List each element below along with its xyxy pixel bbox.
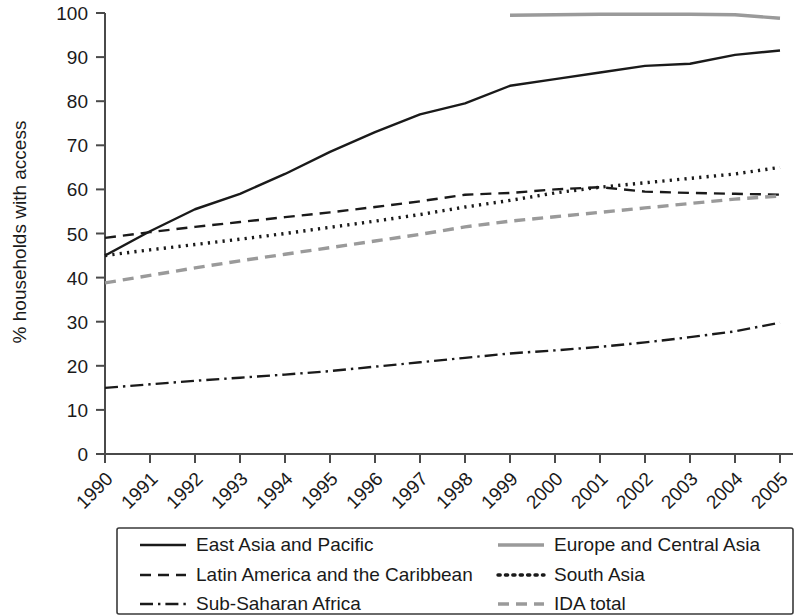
y-axis-ticks: 0102030405060708090100: [56, 3, 105, 465]
x-tick-label: 2002: [612, 468, 657, 513]
x-tick-label: 1996: [342, 468, 387, 513]
series-line-east-asia-and-pacific: [105, 50, 780, 255]
y-tick-label: 30: [67, 312, 88, 333]
series-line-latin-america-and-the-caribbean: [105, 187, 780, 238]
x-tick-label: 2005: [747, 468, 792, 513]
series-line-ida-total: [105, 196, 780, 283]
line-chart: % households with access 010203040506070…: [0, 0, 795, 615]
y-tick-label: 20: [67, 356, 88, 377]
x-tick-label: 1998: [432, 468, 477, 513]
legend-label: East Asia and Pacific: [196, 534, 373, 555]
x-tick-label: 1994: [252, 468, 297, 513]
x-tick-label: 1991: [117, 468, 162, 513]
y-tick-label: 60: [67, 179, 88, 200]
chart-figure: % households with access 010203040506070…: [0, 0, 795, 615]
legend-label: Latin America and the Caribbean: [196, 564, 473, 585]
y-tick-label: 0: [77, 444, 88, 465]
legend: East Asia and PacificEurope and Central …: [140, 534, 760, 614]
series-lines: [105, 14, 780, 388]
legend-label: IDA total: [554, 593, 626, 614]
x-tick-label: 2003: [657, 468, 702, 513]
y-axis-title-label: % households with access: [9, 121, 30, 344]
x-tick-label: 1999: [477, 468, 522, 513]
y-tick-label: 80: [67, 91, 88, 112]
y-tick-label: 100: [56, 3, 88, 24]
y-tick-label: 40: [67, 268, 88, 289]
x-tick-label: 2001: [567, 468, 612, 513]
y-tick-label: 10: [67, 400, 88, 421]
legend-label: Europe and Central Asia: [554, 534, 760, 555]
y-tick-label: 50: [67, 224, 88, 245]
x-tick-label: 1995: [297, 468, 342, 513]
y-tick-label: 90: [67, 47, 88, 68]
legend-label: Sub-Saharan Africa: [196, 593, 361, 614]
x-tick-label: 2004: [702, 468, 747, 513]
x-axis-ticks: 1990199119921993199419951996199719981999…: [72, 454, 792, 513]
x-tick-label: 2000: [522, 468, 567, 513]
y-axis-title: % households with access: [9, 121, 30, 344]
x-tick-label: 1997: [387, 468, 432, 513]
series-line-europe-and-central-asia: [510, 14, 780, 18]
series-line-south-asia: [105, 167, 780, 255]
x-tick-label: 1992: [162, 468, 207, 513]
legend-label: South Asia: [554, 564, 645, 585]
series-line-sub-saharan-africa: [105, 323, 780, 388]
x-tick-label: 1990: [72, 468, 117, 513]
x-tick-label: 1993: [207, 468, 252, 513]
y-tick-label: 70: [67, 135, 88, 156]
